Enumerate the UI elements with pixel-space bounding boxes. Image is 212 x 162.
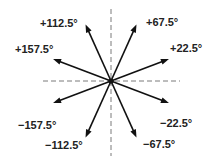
arrowhead-icon xyxy=(130,24,136,33)
angle-label-minus-22-5: −22.5° xyxy=(160,117,192,129)
arrowhead-icon xyxy=(53,97,62,103)
arrowhead-icon xyxy=(130,129,136,138)
angle-label-plus-112-5: +112.5° xyxy=(40,17,78,29)
angle-label-minus-67-5: −67.5° xyxy=(143,138,175,150)
angle-label-plus-157-5: +157.5° xyxy=(15,43,53,55)
angle-label-minus-112-5: −112.5° xyxy=(45,139,83,151)
angle-diagram: +22.5° +67.5° +112.5° +157.5° −157.5° −1… xyxy=(0,0,212,162)
origin-point xyxy=(109,79,114,84)
arrowhead-icon xyxy=(53,59,62,65)
angle-label-minus-157-5: −157.5° xyxy=(18,119,56,131)
arrowhead-icon xyxy=(86,24,92,33)
arrowhead-icon xyxy=(160,97,169,103)
angle-label-plus-67-5: +67.5° xyxy=(146,16,178,28)
angle-label-plus-22-5: +22.5° xyxy=(170,42,202,54)
labels-group: +22.5° +67.5° +112.5° +157.5° −157.5° −1… xyxy=(15,16,202,151)
arrowhead-icon xyxy=(160,59,169,65)
arrowhead-icon xyxy=(86,129,92,138)
